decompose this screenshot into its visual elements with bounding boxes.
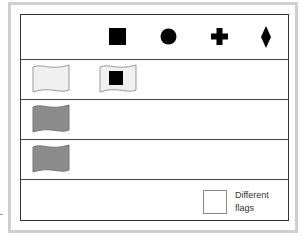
circle-icon [160, 28, 178, 46]
light-flag-with-square-icon [99, 64, 137, 94]
diamond-icon [261, 26, 271, 48]
row-divider [21, 59, 288, 60]
row-divider [21, 99, 288, 100]
dark-flag-icon [32, 144, 70, 174]
legend-swatch [203, 190, 227, 214]
edge-tick [0, 214, 3, 215]
row-divider [21, 179, 288, 180]
legend-line-2: flags [235, 203, 254, 213]
row-divider [21, 139, 288, 140]
legend-label: Differentflags [235, 189, 269, 215]
dark-flag-icon [32, 104, 70, 134]
cross-icon [211, 28, 229, 46]
legend-line-1: Different [235, 190, 269, 200]
light-flag-icon [32, 64, 70, 94]
square-icon [109, 28, 127, 46]
